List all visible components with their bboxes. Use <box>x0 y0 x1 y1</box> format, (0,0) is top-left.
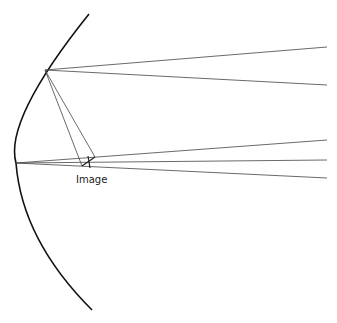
image-label: Image <box>76 174 107 185</box>
ray-diagram <box>0 0 337 323</box>
upper-rays <box>45 47 327 166</box>
axis-rays <box>16 140 327 178</box>
